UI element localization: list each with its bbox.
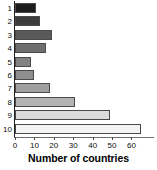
y-tick-label-10: 10	[0, 123, 12, 136]
bar-2	[15, 16, 40, 26]
bar-4	[15, 43, 46, 53]
x-tick-label-50: 50	[102, 140, 122, 151]
bar-row	[15, 15, 147, 28]
y-tick-label-4: 4	[0, 42, 12, 55]
bar-row	[15, 69, 147, 82]
bar-row	[15, 123, 147, 136]
bar-5	[15, 57, 31, 67]
y-tick-label-3: 3	[0, 29, 12, 42]
bar-row	[15, 82, 147, 95]
bar-10	[15, 124, 141, 134]
y-tick-label-2: 2	[0, 15, 12, 28]
y-axis-tick-labels: 1 2 3 4 5 6 7 8 9 10	[0, 2, 14, 136]
bar-row	[15, 42, 147, 55]
bar-row	[15, 56, 147, 69]
y-tick-label-9: 9	[0, 109, 12, 122]
bar-3	[15, 30, 52, 40]
bar-8	[15, 97, 75, 107]
y-tick-label-8: 8	[0, 96, 12, 109]
bar-chart: 1 2 3 4 5 6 7 8 9 10 0102030405060 Numbe…	[0, 0, 157, 170]
x-tick-label-20: 20	[44, 140, 64, 151]
plot-area	[15, 2, 147, 136]
bar-row	[15, 29, 147, 42]
bar-row	[15, 109, 147, 122]
bar-row	[15, 2, 147, 15]
y-tick-label-1: 1	[0, 2, 12, 15]
x-tick-label-40: 40	[83, 140, 103, 151]
x-tick-label-30: 30	[63, 140, 83, 151]
y-tick-label-7: 7	[0, 82, 12, 95]
x-tick-label-10: 10	[24, 140, 44, 151]
bar-row	[15, 96, 147, 109]
x-tick-label-60: 60	[121, 140, 141, 151]
x-axis-tick-labels: 0102030405060	[0, 140, 157, 152]
y-tick-label-6: 6	[0, 69, 12, 82]
x-axis-title: Number of countries	[0, 152, 157, 164]
bar-9	[15, 110, 110, 120]
bar-1	[15, 3, 36, 13]
x-tick-label-0: 0	[5, 140, 25, 151]
bar-7	[15, 83, 50, 93]
bar-6	[15, 70, 34, 80]
y-tick-label-5: 5	[0, 56, 12, 69]
